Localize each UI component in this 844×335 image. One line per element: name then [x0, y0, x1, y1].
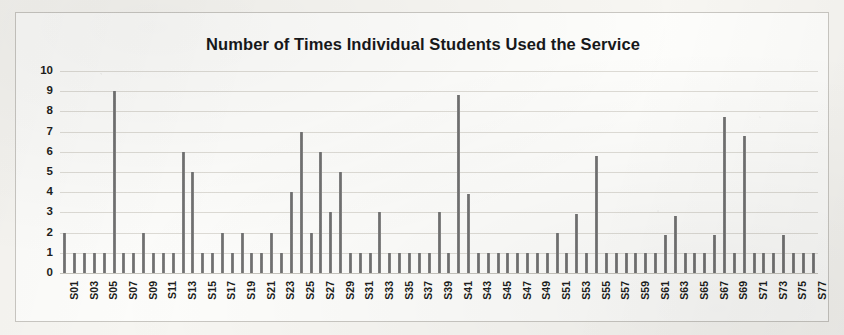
x-axis-tick-label: S23 [285, 281, 296, 300]
x-axis-tick-label: S69 [738, 281, 749, 300]
chart-title: Number of Times Individual Students Used… [16, 35, 830, 54]
bar [162, 253, 165, 273]
y-axis-tick-label: 4 [47, 186, 53, 198]
bar [122, 253, 125, 273]
bar [378, 212, 381, 273]
bar [792, 253, 795, 273]
bar [605, 253, 608, 273]
x-axis-tick-label: S41 [463, 281, 474, 300]
x-axis-tick-label: S33 [384, 281, 395, 300]
y-axis-tick-label: 6 [47, 146, 53, 158]
x-axis-tick-label: S63 [679, 281, 690, 300]
x-axis-tick-label: S05 [108, 281, 119, 300]
x-axis-tick-label: S71 [758, 281, 769, 300]
y-axis-tick-label: 3 [47, 207, 53, 219]
bar [300, 132, 303, 273]
bar [172, 253, 175, 273]
x-axis: S01S03S05S07S09S11S13S15S17S19S21S23S25S… [60, 281, 818, 335]
bar [753, 253, 756, 273]
bar [526, 253, 529, 273]
bar [369, 253, 372, 273]
x-axis-tick-label: S61 [660, 281, 671, 300]
bar [113, 91, 116, 273]
gridline [60, 273, 818, 274]
bar [319, 152, 322, 273]
bar [733, 253, 736, 273]
x-axis-tick-label: S27 [325, 281, 336, 300]
bar [142, 233, 145, 273]
bar [664, 235, 667, 273]
bar [93, 253, 96, 273]
bar [398, 253, 401, 273]
bar [447, 253, 450, 273]
x-axis-tick-label: S35 [404, 281, 415, 300]
bar [290, 192, 293, 273]
bar [703, 253, 706, 273]
bar [388, 253, 391, 273]
x-axis-tick-label: S13 [187, 281, 198, 300]
bar [723, 117, 726, 273]
bar [359, 253, 362, 273]
bar [585, 253, 588, 273]
bar [467, 194, 470, 273]
bar [63, 233, 66, 273]
x-axis-tick-label: S29 [345, 281, 356, 300]
bar [693, 253, 696, 273]
bar [487, 253, 490, 273]
x-axis-tick-label: S55 [601, 281, 612, 300]
y-axis-tick-label: 5 [47, 166, 53, 178]
bar [497, 253, 500, 273]
bar-series [60, 71, 818, 273]
bar [506, 253, 509, 273]
x-axis-tick-label: S59 [640, 281, 651, 300]
x-axis-tick-label: S47 [522, 281, 533, 300]
bar [260, 253, 263, 273]
bar [438, 212, 441, 273]
bar [201, 253, 204, 273]
bar [546, 253, 549, 273]
bar [103, 253, 106, 273]
bar [182, 152, 185, 273]
x-axis-tick-label: S07 [128, 281, 139, 300]
bar [83, 253, 86, 273]
bar [654, 253, 657, 273]
y-axis-tick-label: 0 [47, 267, 53, 279]
x-axis-tick-label: S75 [797, 281, 808, 300]
y-axis-tick-label: 8 [47, 106, 53, 118]
bar [615, 253, 618, 273]
x-axis-tick-label: S11 [167, 281, 178, 299]
bar [428, 253, 431, 273]
x-axis-tick-label: S77 [817, 281, 828, 300]
x-axis-tick-label: S31 [364, 281, 375, 300]
bar [743, 136, 746, 273]
x-axis-tick-label: S19 [246, 281, 257, 300]
bar [280, 253, 283, 273]
x-axis-tick-label: S09 [148, 281, 159, 300]
bar [408, 253, 411, 273]
bar [536, 253, 539, 273]
bar [241, 233, 244, 273]
x-axis-tick-label: S73 [778, 281, 789, 300]
bar [132, 253, 135, 273]
bar [674, 216, 677, 273]
bar [231, 253, 234, 273]
bar [812, 253, 815, 273]
x-axis-tick-label: S39 [443, 281, 454, 300]
x-axis-tick-label: S43 [482, 281, 493, 300]
bar [329, 212, 332, 273]
bar [457, 95, 460, 273]
bar [684, 253, 687, 273]
y-axis-tick-label: 10 [40, 65, 53, 77]
bar [152, 253, 155, 273]
bar [575, 214, 578, 273]
x-axis-tick-label: S51 [561, 281, 572, 300]
y-axis-tick-label: 1 [47, 247, 53, 259]
x-axis-tick-label: S17 [226, 281, 237, 300]
bar [772, 253, 775, 273]
x-axis-tick-label: S49 [541, 281, 552, 300]
scanned-page: Number of Times Individual Students Used… [0, 0, 844, 335]
bar [782, 235, 785, 273]
y-axis-tick-label: 7 [47, 126, 53, 138]
bar [250, 253, 253, 273]
x-axis-tick-label: S57 [620, 281, 631, 300]
